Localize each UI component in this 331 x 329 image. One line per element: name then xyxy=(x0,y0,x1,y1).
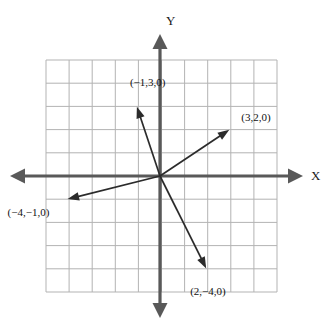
vector-arrowhead xyxy=(217,130,229,140)
vector-label-2: (3,2,0) xyxy=(241,112,270,123)
x-axis-arrow-left xyxy=(10,169,25,184)
vector-coordinate-plane-figure: Y X (−1,3,0) (3,2,0) (−4,−1,0) (2,−4,0) xyxy=(0,0,331,329)
vector-line xyxy=(139,113,160,176)
x-axis-arrow-right xyxy=(288,169,303,184)
y-axis-label: Y xyxy=(166,14,175,27)
vector-arrowhead xyxy=(137,107,145,119)
x-axis-label: X xyxy=(311,169,320,182)
vector-label-4: (2,−4,0) xyxy=(190,286,226,297)
y-axis-arrow-up xyxy=(153,34,168,49)
coordinate-plane-svg xyxy=(0,0,331,329)
vector-line xyxy=(74,176,160,198)
vector-line xyxy=(160,133,224,176)
vector-line xyxy=(160,176,203,263)
vector-label-1: (−1,3,0) xyxy=(130,77,166,88)
y-axis-arrow-down xyxy=(153,303,168,318)
vector-arrowhead xyxy=(197,256,206,268)
vector-label-3: (−4,−1,0) xyxy=(8,207,50,218)
